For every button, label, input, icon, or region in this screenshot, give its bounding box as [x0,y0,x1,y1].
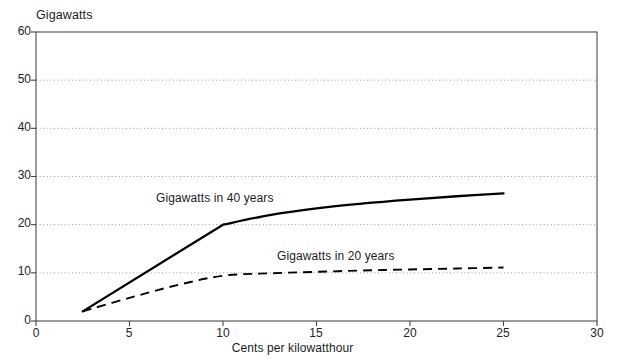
y-axis-tick-labels: 60 50 40 30 20 10 0 [0,0,31,364]
x-tick-30: 30 [577,326,617,340]
chart-figure: Gigawatts 60 50 40 30 20 10 0 0 5 10 15 … [0,0,617,364]
gridlines [36,80,597,273]
x-axis-title-text: Cents per kilowatthour [232,341,354,355]
x-tick-25: 25 [483,326,523,340]
x-axis-title: Cents per kilowatthour [0,341,617,355]
y-tick-0: 0 [5,313,31,327]
series-label-20-years: Gigawatts in 20 years [277,249,395,263]
y-axis-title: Gigawatts [36,8,92,22]
x-tick-0: 0 [16,326,56,340]
y-tick-60: 60 [5,24,31,38]
x-tick-15: 15 [296,326,336,340]
series-label-40-years: Gigawatts in 40 years [156,191,274,205]
y-tick-30: 30 [5,168,31,182]
y-tick-10: 10 [5,264,31,278]
y-tick-50: 50 [5,72,31,86]
plot-frame [36,32,597,321]
y-tick-40: 40 [5,120,31,134]
y-tick-20: 20 [5,216,31,230]
x-tick-5: 5 [109,326,149,340]
plot-area [0,0,617,364]
axis-ticks [31,32,597,326]
x-tick-10: 10 [203,326,243,340]
series-line-20-years [83,268,504,312]
x-tick-20: 20 [390,326,430,340]
